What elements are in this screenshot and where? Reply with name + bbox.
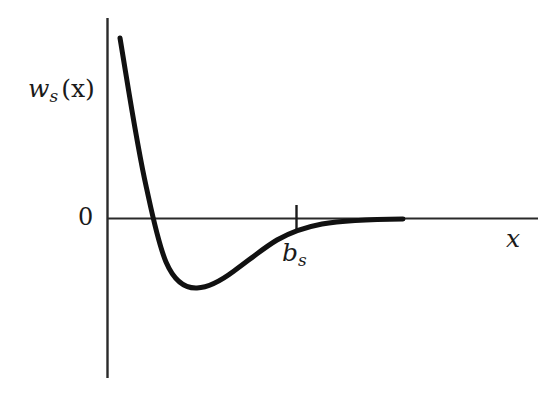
tick-label-bs-subscript: s (298, 250, 307, 270)
tick-label-bs: bs (282, 240, 307, 269)
y-axis-label: ws(x) (28, 76, 95, 105)
zero-level-label: 0 (78, 205, 93, 229)
y-axis-label-main: w (28, 74, 49, 103)
y-axis-label-subscript: s (49, 86, 58, 106)
x-axis-label: x (506, 226, 520, 251)
plot-svg (0, 0, 555, 393)
tick-label-bs-main: b (282, 238, 298, 267)
figure-container: ws(x) 0 bs x (0, 0, 555, 393)
curve-ws-x (120, 38, 403, 288)
y-axis-label-argument: (x) (58, 74, 95, 103)
